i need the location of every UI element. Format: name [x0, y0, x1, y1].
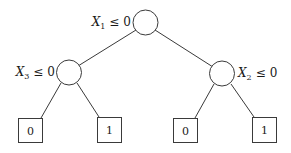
right-node-circle [210, 61, 235, 86]
root-node-circle [133, 10, 158, 35]
right-condition-label: X2≤0 [237, 66, 277, 82]
right-internal-node: X2≤0 [210, 61, 278, 86]
left-internal-node: X3≤0 [15, 60, 82, 85]
decision-tree-diagram: X1≤0 X3≤0 X2≤0 0 1 0 1 [0, 0, 291, 153]
edge-right-to-leaf-2 [195, 84, 214, 118]
edge-root-to-right [155, 30, 213, 67]
left-node-circle [57, 60, 82, 85]
edge-left-to-leaf-0 [41, 83, 61, 118]
root-condition-label: X1≤0 [91, 15, 131, 31]
leaf-label-0: 0 [27, 125, 34, 138]
leaf-label-2: 0 [182, 125, 189, 138]
edge-right-to-leaf-3 [231, 84, 254, 117]
leaf-label-1: 1 [106, 124, 113, 137]
leaf-node-2: 0 [174, 119, 198, 143]
leaf-node-0: 0 [19, 119, 43, 143]
leaf-node-1: 1 [98, 118, 122, 143]
leaf-label-3: 1 [261, 124, 268, 137]
root-node: X1≤0 [91, 10, 158, 35]
edge-root-to-left [78, 30, 136, 66]
leaf-node-3: 1 [253, 118, 277, 143]
edge-left-to-leaf-1 [77, 83, 99, 117]
left-condition-label: X3≤0 [15, 65, 55, 81]
